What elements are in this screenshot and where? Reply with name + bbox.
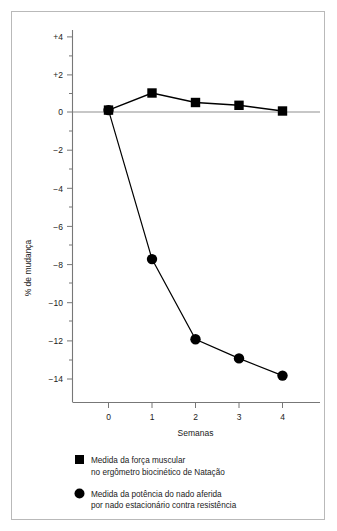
legend-label-line2: no ergômetro biocinético de Natação — [91, 468, 225, 477]
legend-label-line1: Medida da potência do nado aferida — [91, 490, 222, 499]
y-tick-label: +2 — [53, 70, 63, 80]
y-tick-label: −10 — [49, 298, 64, 308]
x-tick-marks — [109, 403, 283, 409]
legend-entry-forca-muscular: Medida da força muscular no ergômetro bi… — [75, 455, 225, 477]
legend-label-line2: por nado estacionário contra resistência — [91, 501, 237, 510]
data-point-square — [104, 105, 113, 114]
x-tick-label: 2 — [193, 412, 198, 422]
data-point-square — [234, 101, 243, 110]
data-point-circle — [277, 370, 287, 380]
legend-circle-marker-icon — [75, 489, 85, 499]
y-tick-label: −14 — [49, 374, 64, 384]
chart-canvas: +4 +2 0 −2 −4 −6 −8 −10 −12 −14 0 1 2 3 … — [0, 0, 337, 531]
y-axis-title: % de mudança — [23, 239, 33, 296]
y-tick-label: −4 — [53, 184, 63, 194]
axis-lines — [73, 30, 321, 403]
data-point-circle — [190, 334, 200, 344]
data-point-square — [147, 88, 156, 97]
y-tick-label: −12 — [49, 336, 64, 346]
y-tick-label: −6 — [53, 222, 63, 232]
y-tick-marks — [67, 37, 73, 379]
x-tick-label: 4 — [280, 412, 285, 422]
data-point-circle — [147, 254, 157, 264]
legend-square-marker-icon — [75, 455, 84, 464]
data-point-square — [278, 106, 287, 115]
y-tick-label: −2 — [53, 145, 63, 155]
x-tick-label: 3 — [237, 412, 242, 422]
y-tick-label: +4 — [53, 32, 63, 42]
y-tick-label: 0 — [58, 107, 63, 117]
x-tick-label: 0 — [106, 412, 111, 422]
x-tick-label: 1 — [150, 412, 155, 422]
x-axis-title: Semanas — [178, 428, 214, 438]
legend-entry-potencia-do-nado: Medida da potência do nado aferida por n… — [75, 489, 237, 511]
figure-container: +4 +2 0 −2 −4 −6 −8 −10 −12 −14 0 1 2 3 … — [0, 0, 337, 531]
chart-legend: Medida da força muscular no ergômetro bi… — [75, 455, 237, 510]
y-tick-labels: +4 +2 0 −2 −4 −6 −8 −10 −12 −14 — [49, 32, 64, 384]
series-circle-potencia-do-nado — [103, 105, 287, 381]
data-point-circle — [234, 353, 244, 363]
y-tick-label: −8 — [53, 260, 63, 270]
legend-label-line1: Medida da força muscular — [91, 456, 185, 465]
data-point-square — [191, 98, 200, 107]
x-tick-labels: 0 1 2 3 4 — [106, 412, 285, 422]
